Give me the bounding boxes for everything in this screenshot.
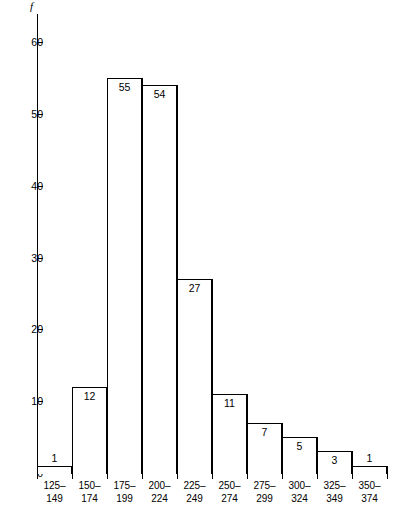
x-axis-tick-mark <box>72 474 73 479</box>
x-axis-label: 225–249 <box>177 480 212 505</box>
histogram-bar: 27 <box>177 279 213 474</box>
y-axis-label: f <box>30 0 33 12</box>
y-axis-tick-mark <box>38 329 43 330</box>
x-axis-tick-mark <box>107 474 108 479</box>
y-axis-tick: 40 <box>0 181 43 191</box>
x-axis-tick-mark <box>212 474 213 479</box>
x-axis-label: 200–224 <box>142 480 177 505</box>
x-axis-label-line: 149 <box>37 493 72 506</box>
histogram-bar: 54 <box>142 85 178 474</box>
x-axis-label: 325–349 <box>317 480 352 505</box>
bar-value-label: 3 <box>318 455 351 466</box>
x-axis-label: 350–374 <box>352 480 387 505</box>
x-axis-label-line: 199 <box>107 493 142 506</box>
x-axis-tick-mark <box>352 474 353 479</box>
x-axis-label: 250–274 <box>212 480 247 505</box>
y-axis-tick-mark <box>38 42 43 43</box>
y-axis-tick-mark <box>38 258 43 259</box>
x-axis-label-line: 249 <box>177 493 212 506</box>
histogram-bar: 11 <box>212 394 248 474</box>
y-axis-tick-mark <box>38 186 43 187</box>
y-axis-tick: 50 <box>0 109 43 119</box>
y-axis-tick: 10 <box>0 396 43 406</box>
y-axis-tick: 20 <box>0 324 43 334</box>
y-axis-tick-mark <box>38 401 43 402</box>
x-axis-tick-mark <box>282 474 283 479</box>
x-axis-label: 275–299 <box>247 480 282 505</box>
histogram-bar: 1 <box>352 466 388 474</box>
x-axis-label: 175–199 <box>107 480 142 505</box>
x-axis-label-line: 200– <box>142 480 177 493</box>
x-axis-label-line: 275– <box>247 480 282 493</box>
histogram-bar: 55 <box>107 78 143 474</box>
histogram-bar: 1 <box>37 466 73 474</box>
bar-value-label: 7 <box>248 427 281 438</box>
x-axis-label-line: 174 <box>72 493 107 506</box>
x-axis-tick-mark <box>387 474 388 479</box>
x-axis-label: 150–174 <box>72 480 107 505</box>
x-axis-label-line: 250– <box>212 480 247 493</box>
x-axis-label-line: 324 <box>282 493 317 506</box>
y-axis-tick-mark <box>38 114 43 115</box>
x-axis-tick-mark <box>317 474 318 479</box>
x-axis-label-line: 175– <box>107 480 142 493</box>
x-axis-label-line: 150– <box>72 480 107 493</box>
histogram-bar: 3 <box>317 451 353 474</box>
histogram-bar: 7 <box>247 423 283 474</box>
x-axis-tick-mark <box>37 474 38 479</box>
x-axis-label: 300–324 <box>282 480 317 505</box>
bar-value-label: 1 <box>38 453 71 464</box>
bar-value-label: 27 <box>178 283 211 294</box>
bar-value-label: 12 <box>73 391 106 402</box>
histogram-bar: 12 <box>72 387 108 474</box>
x-axis-tick-mark <box>247 474 248 479</box>
x-axis-label: 125–149 <box>37 480 72 505</box>
x-axis-label-line: 350– <box>352 480 387 493</box>
x-axis-label-line: 224 <box>142 493 177 506</box>
x-axis-label-line: 325– <box>317 480 352 493</box>
x-axis-label-line: 125– <box>37 480 72 493</box>
x-axis-label-line: 225– <box>177 480 212 493</box>
x-axis-label-line: 374 <box>352 493 387 506</box>
bar-value-label: 11 <box>213 398 246 409</box>
x-axis-tick-mark <box>142 474 143 479</box>
histogram-bar: 5 <box>282 437 318 474</box>
histogram-chart: f 0102030405060 112555427117531 125–1491… <box>0 0 401 508</box>
y-axis-tick: 60 <box>0 37 43 47</box>
x-axis-label-line: 274 <box>212 493 247 506</box>
bar-value-label: 1 <box>353 453 386 464</box>
bar-value-label: 5 <box>283 441 316 452</box>
x-axis-label-line: 299 <box>247 493 282 506</box>
x-axis-label-line: 349 <box>317 493 352 506</box>
x-axis-label-line: 300– <box>282 480 317 493</box>
bar-value-label: 54 <box>143 89 176 100</box>
x-axis-tick-mark <box>177 474 178 479</box>
y-axis-tick: 30 <box>0 253 43 263</box>
bar-value-label: 55 <box>108 82 141 93</box>
